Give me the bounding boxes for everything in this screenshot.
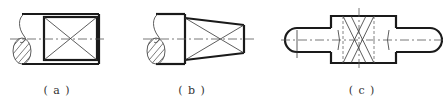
figure-b-label: ( b ) [178,84,206,97]
figure-a-label: ( a ) [43,84,70,97]
figure-c-label: ( c ) [349,84,376,97]
figure-b [140,14,255,70]
figure-c [281,8,443,70]
figure-a [6,14,106,70]
